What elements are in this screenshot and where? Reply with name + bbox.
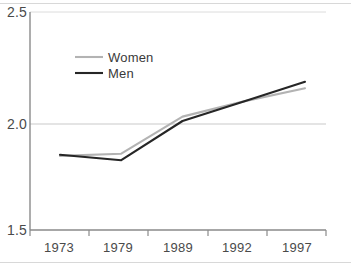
x-tick-label-1973: 1973 bbox=[37, 240, 81, 255]
line-chart-plot bbox=[0, 0, 351, 269]
series-line-men bbox=[60, 82, 305, 160]
y-tick-label-2.0: 2.0 bbox=[1, 116, 27, 132]
chart-figure: 2.5 2.0 1.5 1973 1979 1989 1992 1997 Wom… bbox=[0, 0, 351, 269]
legend-label-women: Women bbox=[108, 50, 154, 65]
x-tick-marks bbox=[30, 230, 326, 236]
x-tick-label-1997: 1997 bbox=[275, 240, 319, 255]
x-tick-label-1992: 1992 bbox=[215, 240, 259, 255]
x-tick-label-1989: 1989 bbox=[156, 240, 200, 255]
y-tick-label-1.5: 1.5 bbox=[1, 222, 27, 238]
y-tick-label-2.5: 2.5 bbox=[1, 4, 27, 20]
legend-label-men: Men bbox=[108, 66, 134, 81]
x-tick-label-1979: 1979 bbox=[96, 240, 140, 255]
